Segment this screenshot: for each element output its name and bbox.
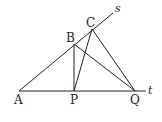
- ray-s: [19, 13, 113, 91]
- segment-cq: [92, 29, 135, 91]
- label-a: A: [13, 93, 23, 107]
- label-q: Q: [130, 93, 140, 107]
- label-s: s: [115, 2, 121, 15]
- geometry-diagram: A P Q B C s t: [0, 0, 162, 122]
- segment-bq: [74, 44, 135, 91]
- label-b: B: [66, 31, 75, 45]
- label-t: t: [148, 84, 153, 97]
- label-c: C: [86, 16, 95, 30]
- label-p: P: [70, 93, 78, 107]
